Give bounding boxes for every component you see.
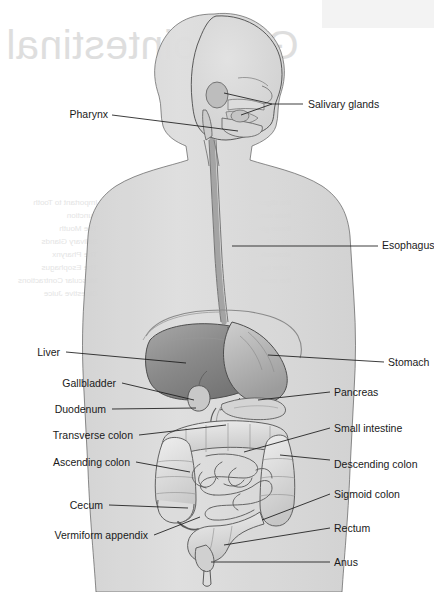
submandibular-gland [231,110,249,122]
label-ascending-colon: Ascending colon [53,456,130,468]
label-vermiform-appendix: Vermiform appendix [55,529,149,541]
label-rectum: Rectum [334,522,370,534]
label-anus: Anus [334,556,358,568]
diagram-stage: Gastrointestinal Important to ToothFunct… [0,0,434,592]
label-gallbladder: Gallbladder [62,377,116,389]
gi-anatomy-figure: Pharynx Liver Gallbladder Duodenum Trans… [0,0,434,592]
label-descending-colon: Descending colon [334,458,418,470]
parotid-gland [206,82,228,108]
label-esophagus: Esophagus [382,239,434,251]
label-small-intestine: Small intestine [334,422,402,434]
label-sigmoid-colon: Sigmoid colon [334,488,400,500]
label-pancreas: Pancreas [334,386,378,398]
label-salivary-glands: Salivary glands [308,98,379,110]
label-stomach: Stomach [388,356,430,368]
label-duodenum: Duodenum [55,403,107,415]
label-transverse-colon: Transverse colon [53,429,133,441]
label-liver: Liver [37,346,60,358]
label-cecum: Cecum [70,499,104,511]
label-pharynx: Pharynx [69,108,108,120]
